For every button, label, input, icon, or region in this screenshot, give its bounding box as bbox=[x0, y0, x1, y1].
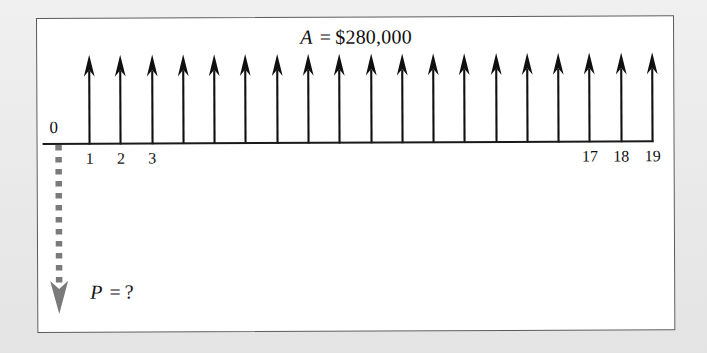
cash-inflow-arrow-3 bbox=[144, 54, 160, 144]
annuity-equals: = bbox=[316, 26, 336, 48]
tick-label-0: 0 bbox=[49, 118, 58, 138]
present-worth-label: P=? bbox=[90, 281, 133, 304]
tick-label-17: 17 bbox=[582, 148, 598, 166]
present-worth-equals: = bbox=[105, 281, 124, 303]
cash-inflow-arrow-9 bbox=[331, 54, 347, 144]
cash-inflow-arrow-18 bbox=[613, 52, 629, 142]
cash-inflow-arrow-1 bbox=[81, 55, 97, 145]
cash-inflow-arrows bbox=[37, 52, 675, 145]
tick-label-3: 3 bbox=[148, 149, 156, 167]
figure-canvas: A=$280,000 0 P=? 123171819 bbox=[37, 16, 676, 334]
present-worth-symbol: P bbox=[90, 281, 105, 303]
cash-inflow-arrow-6 bbox=[238, 54, 254, 144]
annuity-symbol: A bbox=[300, 26, 316, 48]
cash-inflow-arrow-10 bbox=[363, 54, 379, 144]
cash-inflow-arrow-17 bbox=[582, 53, 598, 143]
cash-inflow-arrow-11 bbox=[394, 53, 410, 143]
cash-inflow-arrow-5 bbox=[206, 54, 222, 144]
tick-label-18: 18 bbox=[613, 147, 629, 165]
cash-inflow-arrow-15 bbox=[519, 53, 535, 143]
annuity-label: A=$280,000 bbox=[37, 24, 675, 50]
tick-label-19: 19 bbox=[645, 147, 661, 165]
cash-inflow-arrow-2 bbox=[112, 55, 128, 145]
cash-inflow-arrow-19 bbox=[644, 52, 660, 142]
cash-inflow-arrow-8 bbox=[300, 54, 316, 144]
cash-inflow-arrow-4 bbox=[175, 54, 191, 144]
present-worth-arrow-icon bbox=[46, 143, 73, 315]
scanned-page: A=$280,000 0 P=? 123171819 bbox=[0, 0, 707, 353]
tick-label-1: 1 bbox=[86, 150, 94, 168]
cash-inflow-arrow-12 bbox=[425, 53, 441, 143]
annuity-value: $280,000 bbox=[335, 25, 412, 47]
tick-label-2: 2 bbox=[117, 150, 125, 168]
cash-inflow-arrow-7 bbox=[269, 54, 285, 144]
present-worth-value: ? bbox=[125, 281, 134, 303]
figure-frame: A=$280,000 0 P=? 123171819 bbox=[36, 15, 675, 333]
cash-inflow-arrow-13 bbox=[456, 53, 472, 143]
cash-inflow-arrow-16 bbox=[550, 53, 566, 143]
cash-inflow-arrow-14 bbox=[488, 53, 504, 143]
